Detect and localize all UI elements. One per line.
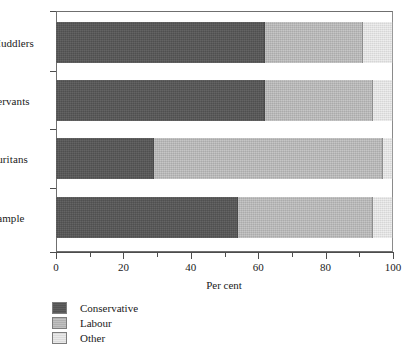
y-axis-tick <box>50 129 56 130</box>
chart-legend: Conservative Labour Other <box>52 300 138 345</box>
bar-segment-conservative-puritans <box>56 138 154 179</box>
y-axis-tick <box>50 71 56 72</box>
legend-swatch-conservative-icon <box>52 302 67 314</box>
bar-row <box>56 80 393 121</box>
x-axis-tick-minor <box>359 253 360 257</box>
legend-label-labour: Labour <box>80 317 112 329</box>
bar-segment-other-sample <box>373 197 393 238</box>
stacked-bar-chart: MuddlersServantsPuritansSample 020406080… <box>0 0 406 351</box>
bar-segment-labour-puritans <box>154 138 383 179</box>
bar-segment-conservative-muddlers <box>56 22 265 63</box>
legend-swatch-labour-icon <box>52 317 67 329</box>
x-axis-tick-major <box>191 253 192 259</box>
x-axis-tick-major <box>258 253 259 259</box>
x-axis-title: Per cent <box>0 279 406 292</box>
x-axis-tick-major <box>326 253 327 259</box>
legend-swatch-other-icon <box>52 332 67 344</box>
legend-item-labour: Labour <box>52 315 138 330</box>
x-axis-tick-major <box>56 253 57 259</box>
y-axis-tick <box>50 188 56 189</box>
x-axis-tick-label: 100 <box>373 261 406 273</box>
x-axis-tick-minor <box>292 253 293 257</box>
bar-segment-other-muddlers <box>363 22 393 63</box>
bar-row <box>56 22 393 63</box>
x-axis-tick-label: 20 <box>103 261 143 273</box>
bar-row <box>56 138 393 179</box>
bar-segment-conservative-sample <box>56 197 238 238</box>
x-axis-tick-label: 0 <box>36 261 76 273</box>
bar-segment-labour-muddlers <box>265 22 363 63</box>
legend-label-conservative: Conservative <box>80 302 138 314</box>
bar-row <box>56 197 393 238</box>
x-axis-tick-label: 60 <box>238 261 278 273</box>
legend-item-conservative: Conservative <box>52 300 138 315</box>
x-axis-tick-major <box>393 253 394 259</box>
x-axis-tick-label: 40 <box>171 261 211 273</box>
category-label-sample: Sample <box>0 212 47 224</box>
x-axis-tick-minor <box>225 253 226 257</box>
category-label-muddlers: Muddlers <box>0 37 47 49</box>
bar-segment-other-servants <box>373 80 393 121</box>
legend-label-other: Other <box>80 332 105 344</box>
y-axis-tick <box>50 11 56 12</box>
category-label-puritans: Puritans <box>0 153 47 165</box>
x-axis-tick-label: 80 <box>306 261 346 273</box>
x-axis-tick-minor <box>157 253 158 257</box>
bar-segment-other-puritans <box>383 138 393 179</box>
x-axis-tick-major <box>123 253 124 259</box>
bar-segment-labour-sample <box>238 197 373 238</box>
x-axis-tick-minor <box>90 253 91 257</box>
legend-item-other: Other <box>52 330 138 345</box>
category-label-servants: Servants <box>0 95 47 107</box>
bar-segment-labour-servants <box>265 80 373 121</box>
bar-segment-conservative-servants <box>56 80 265 121</box>
